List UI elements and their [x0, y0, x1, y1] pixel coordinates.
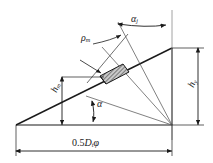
label-angle-alpha: α: [97, 99, 102, 109]
technical-diagram-svg: [0, 0, 213, 163]
converging-rays: [86, 22, 172, 125]
radius-pointer-line: [80, 60, 101, 73]
angle-arc-j: [118, 24, 166, 26]
dimension-h-y: [172, 48, 204, 125]
radius-leader-arc: [93, 35, 121, 44]
diagram-canvas: αj ρm α hm hy 0.5Dtφ: [0, 0, 213, 163]
label-angle-j: αj: [131, 14, 138, 25]
angle-arc-alpha: [92, 101, 94, 122]
label-base-dimension: 0.5Dtφ: [72, 138, 99, 149]
hatched-block: [100, 64, 129, 84]
label-radius-rho-m: ρm: [81, 33, 90, 44]
